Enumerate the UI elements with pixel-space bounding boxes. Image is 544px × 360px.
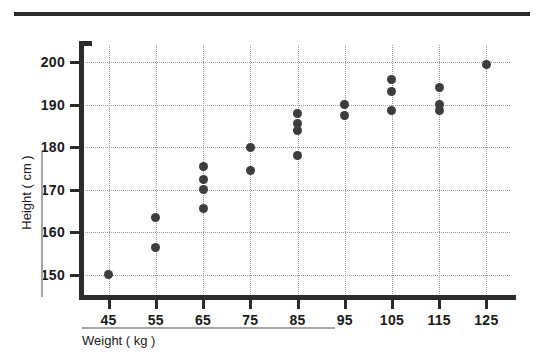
gridline-vertical (298, 45, 299, 296)
y-axis-tick-label: 200 (41, 55, 65, 69)
data-point (435, 106, 444, 115)
y-axis-tick-label: 190 (41, 98, 65, 112)
data-point (199, 175, 208, 184)
y-axis-tick (70, 189, 79, 192)
data-point (293, 126, 302, 135)
y-axis-tick (70, 61, 79, 64)
data-point (340, 111, 349, 120)
data-point (387, 75, 396, 84)
x-axis-tick-label: 65 (195, 312, 211, 328)
data-point (293, 151, 302, 160)
y-axis-tick-label: 160 (41, 225, 65, 239)
y-axis-top-cap (79, 41, 92, 46)
data-point (151, 243, 160, 252)
data-point (199, 204, 208, 213)
data-point (246, 143, 255, 152)
x-axis-tick (202, 300, 205, 309)
data-point (435, 83, 444, 92)
x-axis-tick (485, 300, 488, 309)
x-axis-tick (297, 300, 300, 309)
data-point (104, 270, 113, 279)
gridline-vertical (156, 45, 157, 296)
x-axis-tick-label: 75 (242, 312, 258, 328)
x-axis-tick-label: 115 (427, 312, 451, 328)
y-axis-tick-label: 150 (41, 268, 65, 282)
y-axis-tick-label: 180 (41, 140, 65, 154)
y-axis-title: Height ( cm ) (19, 123, 34, 263)
x-axis-tick-label: 85 (289, 312, 305, 328)
data-point (387, 106, 396, 115)
y-axis-title-rule (41, 152, 43, 297)
data-point (246, 166, 255, 175)
top-divider-rule (14, 12, 530, 16)
data-point (387, 87, 396, 96)
data-point (293, 109, 302, 118)
x-axis-tick-label: 45 (101, 312, 117, 328)
gridline-horizontal (85, 275, 510, 276)
x-axis-tick (108, 300, 111, 309)
y-axis-tick-label: 170 (41, 183, 65, 197)
x-axis-title-rule (82, 327, 335, 329)
gridline-vertical (486, 45, 487, 296)
x-axis-tick-label: 125 (474, 312, 498, 328)
gridline-horizontal (85, 62, 510, 63)
x-axis-tick (249, 300, 252, 309)
x-axis-tick (438, 300, 441, 309)
y-axis-tick (70, 231, 79, 234)
x-axis-title: Weight ( kg ) (82, 333, 155, 348)
x-axis-tick (155, 300, 158, 309)
data-point (199, 185, 208, 194)
scatter-chart-figure: 150160170180190200 455565758595105115125… (0, 0, 544, 360)
gridline-horizontal (85, 147, 510, 148)
x-axis-tick (344, 300, 347, 309)
gridline-horizontal (85, 232, 510, 233)
y-axis-tick (70, 146, 79, 149)
gridline-vertical (109, 45, 110, 296)
x-axis-tick (391, 300, 394, 309)
gridline-vertical (345, 45, 346, 296)
gridline-horizontal (85, 105, 510, 106)
data-point (340, 100, 349, 109)
x-axis-tick-label: 105 (380, 312, 404, 328)
data-point (199, 162, 208, 171)
data-point (482, 60, 491, 69)
plot-area (85, 45, 510, 296)
y-axis-tick (70, 104, 79, 107)
x-axis-tick-label: 55 (148, 312, 164, 328)
y-axis-line (79, 41, 84, 300)
data-point (151, 213, 160, 222)
y-axis-tick (70, 274, 79, 277)
gridline-horizontal (85, 190, 510, 191)
x-axis-tick-label: 95 (337, 312, 353, 328)
